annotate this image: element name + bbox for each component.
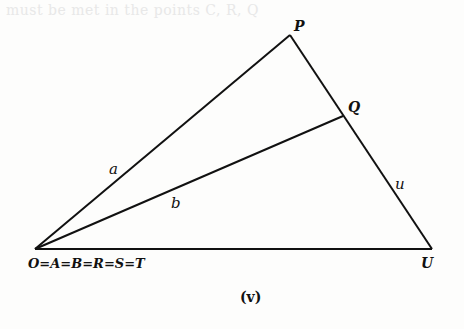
segment-p-u <box>290 35 432 249</box>
point-label-q: Q <box>348 99 360 115</box>
segment-label-b: b <box>171 194 181 212</box>
triangle-diagram: P Q O=A=B=R=S=T U a b u (v) <box>0 0 464 329</box>
segment-o-p <box>35 35 290 249</box>
segment-o-q <box>35 116 343 249</box>
figure-caption: (v) <box>240 289 261 305</box>
segment-label-a: a <box>109 160 118 178</box>
segment-label-u: u <box>395 175 405 193</box>
point-label-p: P <box>293 18 305 34</box>
figure-canvas: must be met in the points C, R, Q P Q O=… <box>0 0 464 329</box>
point-label-o: O=A=B=R=S=T <box>28 256 146 271</box>
point-label-u: U <box>421 255 434 271</box>
